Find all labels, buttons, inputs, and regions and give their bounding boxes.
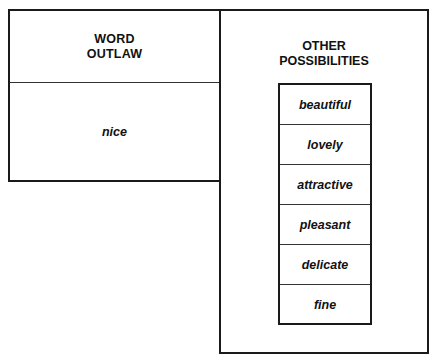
other-possibilities-box: OTHER POSSIBILITIES beautiful lovely att… [219,9,429,354]
other-possibilities-header: OTHER POSSIBILITIES [221,39,427,69]
list-item: pleasant [280,205,370,245]
header-line: OUTLAW [87,47,142,62]
header-line: WORD [87,32,142,47]
outlaw-word: nice [10,83,219,180]
list-item: delicate [280,245,370,285]
word-outlaw-header: WORD OUTLAW [10,11,219,83]
list-item: attractive [280,165,370,205]
word-outlaw-box: WORD OUTLAW nice [8,9,221,182]
possibilities-list: beautiful lovely attractive pleasant del… [278,83,372,325]
header-line: OTHER [221,39,427,54]
list-item: lovely [280,125,370,165]
header-line: POSSIBILITIES [221,54,427,69]
list-item: fine [280,285,370,325]
list-item: beautiful [280,85,370,125]
